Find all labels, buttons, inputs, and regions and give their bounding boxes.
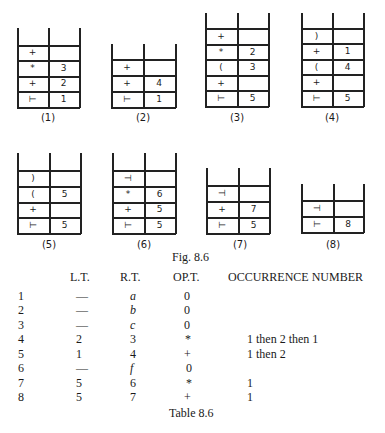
figure-caption: Fig. 8.6 — [172, 250, 209, 265]
cell-lt: 5 — [76, 390, 82, 405]
stack-wall — [80, 153, 82, 234]
stack-operator: ⊣ — [112, 171, 144, 186]
stack-operator: ⊣ — [206, 186, 238, 201]
stack-operator: + — [17, 76, 48, 91]
stack-operand — [237, 29, 268, 44]
stack-operand: 5 — [49, 187, 80, 202]
stack-operator: ) — [301, 29, 332, 44]
stack-operand: 2 — [48, 76, 79, 91]
stack-operator: ⊢ — [205, 91, 237, 106]
stack-operand — [332, 29, 363, 44]
cell-opt: + — [184, 390, 191, 405]
header-occurrence: OCCURRENCE NUMBER — [228, 270, 363, 285]
stack-operand: 1 — [48, 92, 79, 107]
stack-label: (7) — [225, 239, 255, 250]
stack-wall — [363, 184, 365, 233]
stack-operand — [333, 201, 363, 216]
row-number: 4 — [18, 332, 24, 347]
cell-rt: 6 — [130, 376, 136, 391]
row-number: 8 — [18, 390, 24, 405]
header-rt: R.T. — [120, 270, 140, 285]
stack-operator: ⊢ — [111, 92, 143, 107]
stack-operator: ) — [17, 171, 49, 186]
row-number: 1 — [18, 289, 24, 304]
row-number: 7 — [18, 376, 24, 391]
stack-operator: + — [301, 75, 332, 90]
stack-operand — [332, 75, 363, 90]
cell-rt: c — [130, 318, 135, 333]
row-line — [301, 232, 364, 234]
cell-opt: 0 — [184, 303, 190, 318]
stack-operator: + — [111, 60, 143, 75]
stack-label: (4) — [317, 112, 347, 123]
cell-opt: * — [185, 332, 191, 347]
stack-operator: ⊢ — [17, 92, 48, 107]
row-line — [17, 233, 81, 235]
cell-opt: + — [184, 347, 191, 362]
stack-operand: 1 — [332, 44, 363, 59]
row-line — [301, 106, 364, 108]
cell-lt: — — [76, 318, 88, 333]
stack-wall — [175, 153, 177, 234]
stack-operand: 5 — [238, 218, 269, 233]
stack-operand: 4 — [332, 60, 363, 75]
stack-operand — [143, 60, 175, 75]
stack-operand: 5 — [144, 202, 175, 217]
stack-operand — [238, 186, 269, 201]
stack-label: (5) — [34, 239, 64, 250]
cell-lt: — — [76, 289, 88, 304]
cell-lt: — — [76, 303, 88, 318]
stack-operator: ⊢ — [301, 217, 333, 232]
stack-operand — [144, 171, 175, 186]
stack-label: (1) — [33, 112, 63, 123]
cell-occurrence: 1 then 2 — [247, 347, 286, 362]
stack-operator: + — [17, 45, 48, 60]
stack-operator: + — [206, 202, 238, 217]
stack-operator: ( — [301, 60, 332, 75]
cell-rt: b — [130, 303, 136, 318]
cell-rt: 7 — [130, 390, 136, 405]
stack-operator: ⊢ — [17, 218, 49, 233]
table-caption: Table 8.6 — [169, 406, 213, 421]
cell-rt: 3 — [130, 332, 136, 347]
stack-label: (2) — [128, 112, 158, 123]
cell-lt: 1 — [76, 347, 82, 362]
stack-operand: 6 — [144, 187, 175, 202]
row-line — [17, 107, 80, 109]
stack-operand: 8 — [333, 217, 363, 232]
stack-operand: 5 — [144, 218, 175, 233]
cell-opt: 0 — [186, 361, 192, 376]
stack-operator: + — [205, 76, 237, 91]
stack-operator: ⊢ — [301, 91, 332, 106]
stack-operator: + — [301, 44, 332, 59]
row-number: 5 — [18, 347, 24, 362]
stack-operand: 4 — [143, 76, 175, 91]
cell-lt: — — [76, 361, 88, 376]
cell-opt: * — [186, 376, 192, 391]
row-line — [112, 233, 176, 235]
cell-occurrence: 1 then 2 then 1 — [247, 332, 318, 347]
stack-label: (6) — [129, 239, 159, 250]
stack-operand: 5 — [332, 91, 363, 106]
stack-operand: 5 — [237, 91, 268, 106]
stack-operator: + — [111, 76, 143, 91]
header-lt: L.T. — [70, 270, 90, 285]
stack-label: (3) — [222, 112, 252, 123]
stack-operator: ⊢ — [112, 218, 144, 233]
cell-occurrence: 1 — [247, 390, 253, 405]
row-number: 3 — [18, 318, 24, 333]
stack-label: (8) — [318, 239, 348, 250]
stack-operator: * — [112, 187, 144, 202]
row-line — [205, 106, 269, 108]
cell-lt: 5 — [76, 376, 82, 391]
stack-operand — [48, 45, 79, 60]
stack-operand: 7 — [238, 202, 269, 217]
cell-lt: 2 — [76, 332, 82, 347]
row-number: 6 — [18, 361, 24, 376]
stack-operand: 3 — [48, 61, 79, 76]
stack-operator: ( — [17, 187, 49, 202]
cell-opt: 0 — [184, 289, 190, 304]
row-line — [111, 107, 176, 109]
stack-wall — [79, 28, 81, 108]
stack-operand — [237, 76, 268, 91]
